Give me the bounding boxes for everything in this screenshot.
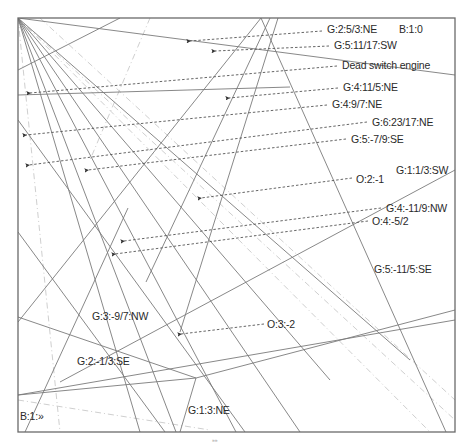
leader-arrow-g-4-9-7-ne: [26, 105, 327, 135]
track-line: [18, 18, 236, 432]
track-line: [18, 87, 290, 95]
label-g-2-5-3-ne: G:2:5/3:NE: [327, 24, 377, 35]
label-g-6-23-17-ne: G:6:23/17:NE: [372, 117, 433, 128]
label-o-3-2: O:3:-2: [267, 319, 295, 330]
label-g-3-9-7-nw: G:3:-9/7:NW: [92, 311, 148, 322]
track-line: [18, 18, 176, 432]
track-line: [18, 18, 140, 432]
label-o-4-5-2: O:4:-5/2: [372, 216, 408, 227]
track-line: [180, 18, 278, 332]
label-b-1-0: B:1:0: [399, 24, 423, 35]
label-g-4-11-5-ne: G:4:11/5:NE: [343, 82, 398, 93]
label-b-1-raquo: B:1:»: [20, 411, 44, 422]
leader-arrow-g-2-5-3-ne: [190, 31, 322, 41]
leader-arrow-g-4-11-5-ne: [229, 88, 338, 98]
track-line: [196, 310, 455, 378]
label-g-4-11-9-nw: G:4:-11/9:NW: [386, 203, 447, 214]
track-line: [18, 232, 165, 432]
leader-arrow-o-2-1: [201, 178, 352, 198]
track-line: [18, 18, 300, 432]
leader-arrow-dead-switch-engine: [30, 66, 337, 93]
label-g-1-3-ne: G:1:3:NE: [188, 405, 230, 416]
label-o-2-1: O:2:-1: [356, 174, 384, 185]
label-g-2-1-3-se: G:2:-1/3:SE: [77, 356, 130, 367]
bottom-mark: »»: [212, 438, 218, 443]
label-g-1-1-3-sw: G:1:1/3:SW: [396, 165, 448, 176]
leader-arrow-o-3-2: [181, 324, 264, 334]
track-line: [18, 378, 196, 395]
track-line: [18, 120, 245, 432]
label-g-5-11-5-se: G:5:-11/5:SE: [374, 264, 432, 275]
faint-track-line: [18, 400, 210, 430]
label-dead-switch-engine: Dead switch engine: [342, 60, 430, 71]
label-g-5-7-9-se: G:5:-7/9:SE: [351, 134, 404, 145]
leader-arrow-g-5-11-17-sw: [215, 46, 329, 51]
label-g-5-11-17-sw: G:5:11/17:SW: [334, 40, 397, 51]
leader-arrow-g-6-23-17-ne: [29, 122, 367, 165]
label-g-4-9-7-ne: G:4:9/7:NE: [332, 99, 382, 110]
